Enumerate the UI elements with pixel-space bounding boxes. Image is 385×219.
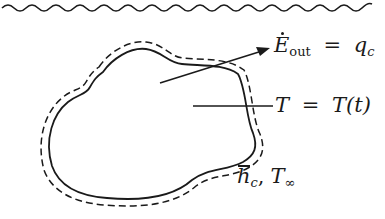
arrowhead-icon xyxy=(256,47,270,56)
heat-transfer-coefficient-subscript: c xyxy=(251,175,258,190)
temperature-function: T(t) xyxy=(332,93,371,117)
heat-rate-subscript: c xyxy=(367,44,374,59)
temperature-symbol: T xyxy=(275,93,289,117)
energy-out-label: Eout = qc xyxy=(274,35,375,56)
convection-label: hc,T∞ xyxy=(237,166,295,187)
heat-transfer-coefficient-symbol: h xyxy=(237,166,251,187)
temperature-equals-sign: = xyxy=(302,93,320,117)
body-outline xyxy=(49,49,255,199)
label-separator: , xyxy=(258,164,265,188)
wavy-boundary-line xyxy=(2,4,372,12)
ambient-temperature-symbol: T xyxy=(271,164,285,188)
energy-subscript: out xyxy=(289,44,310,59)
equals-sign: = xyxy=(323,33,341,57)
boundary-layer-dashed-outline xyxy=(41,42,263,206)
heat-rate-symbol: q xyxy=(354,33,367,57)
ambient-temperature-subscript: ∞ xyxy=(285,175,296,190)
energy-symbol: E xyxy=(274,35,289,56)
temperature-label: T = T(t) xyxy=(275,95,371,116)
